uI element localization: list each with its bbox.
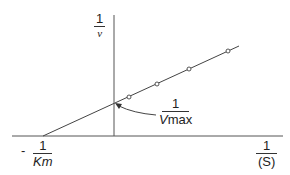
vmax-v: V	[159, 112, 168, 127]
y-axis-label: 1 v	[94, 12, 105, 39]
x-axis-label-denominator: (S)	[258, 154, 275, 168]
x-intercept-label: 1 Km	[33, 139, 53, 168]
data-point	[155, 82, 159, 86]
data-point	[187, 67, 191, 71]
regression-line	[43, 46, 239, 136]
y-intercept-denominator: Vmax	[159, 112, 192, 126]
data-point	[127, 95, 131, 99]
x-intercept-sign: -	[21, 143, 25, 158]
x-axis-label-numerator: 1	[256, 139, 277, 154]
y-intercept-label: 1 Vmax	[159, 97, 192, 126]
data-point	[226, 49, 230, 53]
y-axis-label-numerator: 1	[94, 12, 105, 27]
vmax-sub: max	[168, 112, 193, 127]
y-intercept-numerator: 1	[162, 97, 189, 112]
annotation-arrow	[119, 106, 156, 115]
arrowhead-icon	[115, 103, 122, 109]
x-axis-label: 1 (S)	[256, 139, 277, 168]
x-intercept-numerator: 1	[33, 139, 52, 154]
y-axis-label-denominator: v	[97, 27, 102, 39]
x-intercept-denominator: Km	[33, 154, 53, 168]
